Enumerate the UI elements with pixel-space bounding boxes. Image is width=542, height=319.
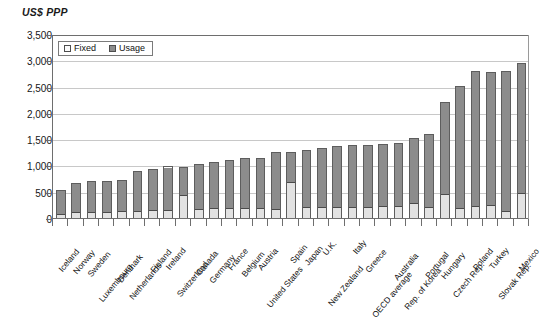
stacked-bar[interactable] — [225, 160, 235, 218]
bar-segment-fixed — [88, 212, 96, 218]
bar-segment-fixed — [379, 206, 387, 218]
x-axis-tick-mark — [344, 219, 345, 226]
bar-segment-fixed — [241, 208, 249, 218]
bar-segment-usage — [257, 159, 265, 208]
x-axis-tick-mark — [298, 219, 299, 226]
stacked-bar[interactable] — [440, 102, 450, 218]
stacked-bar[interactable] — [102, 181, 112, 218]
bar-slot — [114, 34, 129, 218]
x-axis-tick-mark — [421, 219, 422, 226]
bar-segment-fixed — [149, 210, 157, 218]
stacked-bar[interactable] — [363, 145, 373, 218]
stacked-bar[interactable] — [256, 158, 266, 218]
bar-segment-usage — [333, 147, 341, 207]
x-axis-label-text: New Zealand — [326, 264, 365, 308]
stacked-bar[interactable] — [87, 181, 97, 218]
y-axis-tick-mark — [46, 61, 51, 62]
x-axis-tick-mark — [313, 219, 314, 226]
legend: Fixed Usage — [58, 41, 153, 56]
stacked-bar[interactable] — [271, 152, 281, 218]
bar-segment-fixed — [257, 208, 265, 218]
stacked-bar[interactable] — [348, 145, 358, 218]
x-axis-tick-mark — [236, 219, 237, 226]
stacked-bar[interactable] — [194, 164, 204, 218]
x-axis-tick-mark — [190, 219, 191, 226]
bar-segment-usage — [287, 153, 295, 182]
stacked-bar[interactable] — [286, 152, 296, 218]
bar-slot — [84, 34, 99, 218]
stacked-bar[interactable] — [71, 183, 81, 218]
bar-segment-usage — [134, 172, 142, 211]
stacked-bar[interactable] — [471, 71, 481, 218]
stacked-bar[interactable] — [394, 143, 404, 218]
x-axis-tick-mark — [374, 219, 375, 226]
bar-slot — [452, 34, 467, 218]
bar-slot — [314, 34, 329, 218]
bar-slot — [360, 34, 375, 218]
x-axis-tick-mark — [113, 219, 114, 226]
bar-slot — [237, 34, 252, 218]
x-axis-tick-mark — [359, 219, 360, 226]
bar-slot — [53, 34, 68, 218]
y-axis-tick-mark — [46, 35, 51, 36]
plot-area — [52, 35, 528, 219]
x-axis-tick-mark — [267, 219, 268, 226]
x-axis-tick-mark — [497, 219, 498, 226]
stacked-bar[interactable] — [332, 146, 342, 218]
x-axis-label-text: United States — [264, 265, 304, 310]
bar-segment-fixed — [180, 195, 188, 218]
bar-slot — [268, 34, 283, 218]
bar-slot — [222, 34, 237, 218]
bar-segment-usage — [57, 191, 65, 215]
stacked-bar[interactable] — [209, 162, 219, 218]
x-axis-tick-mark — [83, 219, 84, 226]
stacked-bar[interactable] — [409, 138, 419, 218]
bar-slot — [422, 34, 437, 218]
stacked-bar[interactable] — [163, 166, 173, 218]
stacked-bar[interactable] — [317, 148, 327, 218]
bar-segment-usage — [472, 72, 480, 205]
stacked-bar[interactable] — [486, 72, 496, 218]
bar-segment-usage — [241, 159, 249, 208]
x-axis-tick-mark — [467, 219, 468, 226]
bar-segment-fixed — [349, 207, 357, 218]
stacked-bar[interactable] — [117, 180, 127, 218]
stacked-bar[interactable] — [501, 71, 511, 218]
bar-slot — [498, 34, 513, 218]
bar-segment-usage — [441, 103, 449, 195]
bar-segment-usage — [318, 149, 326, 208]
stacked-bar[interactable] — [133, 171, 143, 218]
stacked-bar[interactable] — [302, 150, 312, 218]
stacked-bar[interactable] — [424, 134, 434, 218]
bar-segment-usage — [518, 64, 526, 193]
x-axis-tick-mark — [390, 219, 391, 226]
x-axis-tick-mark — [282, 219, 283, 226]
bar-slot — [283, 34, 298, 218]
bar-slot — [329, 34, 344, 218]
bar-segment-fixed — [456, 208, 464, 218]
stacked-bar[interactable] — [179, 167, 189, 218]
bar-slot — [345, 34, 360, 218]
bar-slot — [391, 34, 406, 218]
x-axis-tick-mark — [252, 219, 253, 226]
stacked-bar[interactable] — [56, 190, 66, 218]
stacked-bar[interactable] — [240, 158, 250, 218]
bar-segment-usage — [180, 168, 188, 195]
stacked-bar[interactable] — [517, 63, 527, 218]
stacked-bar[interactable] — [455, 86, 465, 218]
bar-segment-fixed — [441, 194, 449, 218]
bar-slot — [207, 34, 222, 218]
stacked-bar[interactable] — [378, 144, 388, 218]
stacked-bar[interactable] — [148, 169, 158, 218]
bar-slot — [130, 34, 145, 218]
bar-slot — [406, 34, 421, 218]
bar-segment-fixed — [425, 207, 433, 218]
bar-slot — [437, 34, 452, 218]
bar-segment-fixed — [103, 212, 111, 218]
x-axis-tick-mark — [436, 219, 437, 226]
bar-segment-fixed — [318, 207, 326, 218]
y-axis-tick-mark — [46, 166, 51, 167]
bar-segment-fixed — [364, 207, 372, 218]
y-axis: 05001,0001,5002,0002,5003,0003,500 — [0, 0, 52, 296]
